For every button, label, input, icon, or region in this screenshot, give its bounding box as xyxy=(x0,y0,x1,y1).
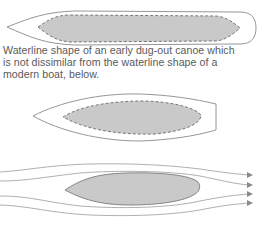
arrow-icon xyxy=(247,191,253,197)
modern-boat xyxy=(33,94,216,141)
dugout-waterline xyxy=(38,15,240,42)
arrow-icon xyxy=(247,172,253,178)
streamlined-hull xyxy=(65,173,200,205)
dugout-canoe xyxy=(7,11,256,45)
arrow-icon xyxy=(247,182,253,188)
figure-caption: Waterline shape of an early dug-out cano… xyxy=(3,45,258,80)
caption-line: modern boat, below. xyxy=(3,69,258,81)
flow-arrowheads xyxy=(247,172,253,206)
diagram-canvas xyxy=(0,0,258,227)
modern-boat-waterline xyxy=(63,101,201,134)
arrow-icon xyxy=(247,200,253,206)
caption-line: is not dissimilar from the waterline sha… xyxy=(3,57,258,69)
